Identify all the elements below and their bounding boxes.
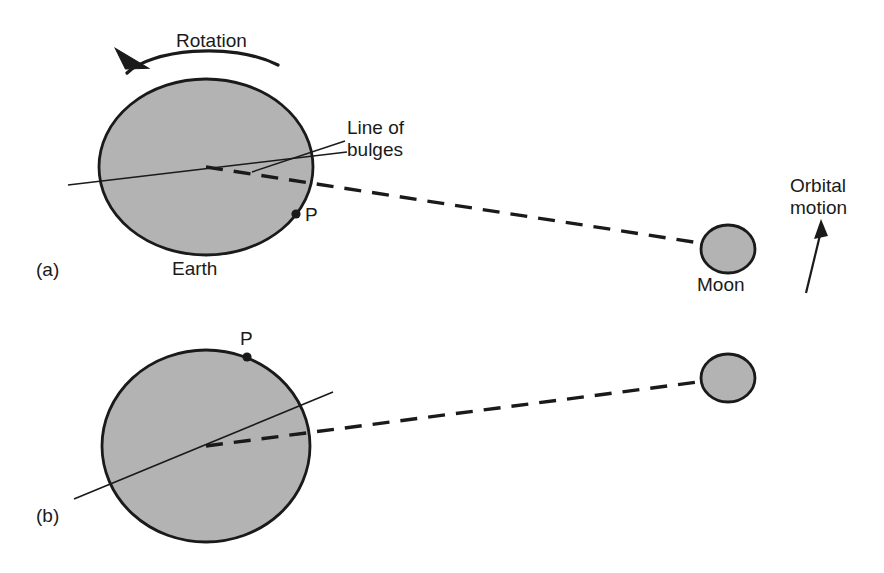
panel-label-a: (a): [36, 259, 59, 281]
orbital-motion-label: Orbital motion: [790, 175, 847, 219]
rotation-arrow-icon: [113, 48, 278, 73]
moon-body-a: [701, 225, 755, 273]
point-p-label-a: P: [305, 204, 318, 226]
diagram-canvas: [0, 0, 884, 573]
earth-label: Earth: [172, 258, 217, 280]
tidal-bulge-diagram: Rotation Line of bulges Earth Moon Orbit…: [0, 0, 884, 573]
panel-label-b: (b): [36, 505, 59, 527]
point-p-marker-a: [291, 209, 300, 218]
rotation-label: Rotation: [176, 30, 247, 52]
panel-b-group: [74, 350, 755, 542]
panel-a-group: [68, 48, 828, 293]
point-p-marker-b: [242, 352, 251, 361]
moon-body-b: [701, 354, 755, 402]
orbital-motion-arrow-icon: [806, 219, 828, 293]
moon-label: Moon: [697, 274, 745, 296]
point-p-label-b: P: [240, 328, 253, 350]
line-of-bulges-label: Line of bulges: [347, 117, 404, 161]
